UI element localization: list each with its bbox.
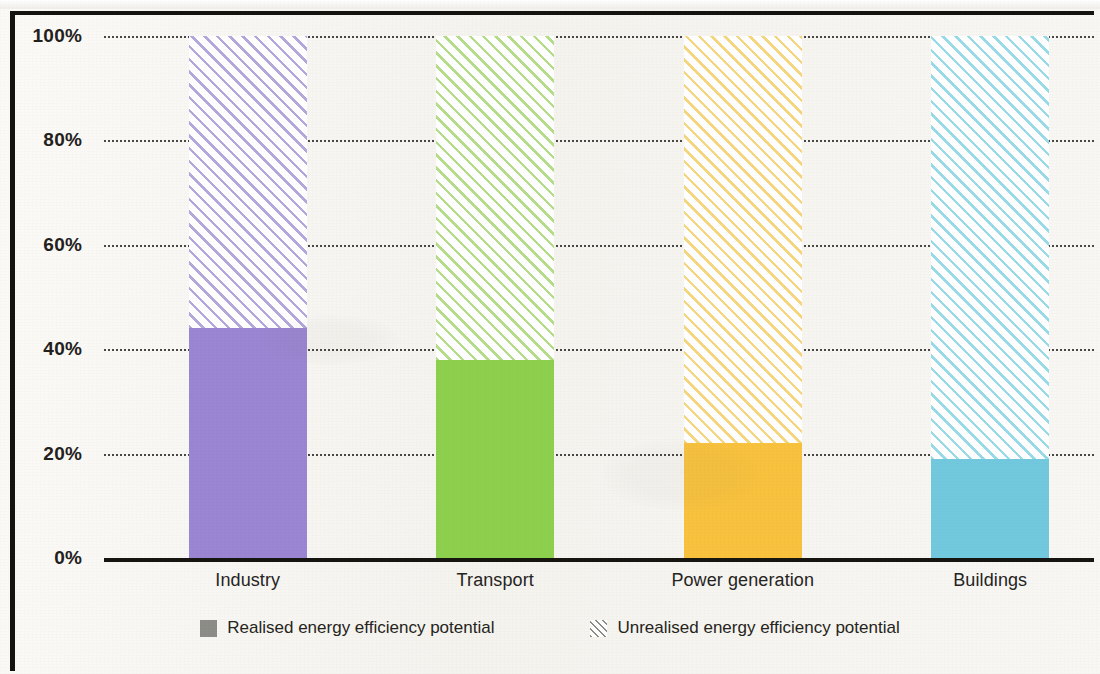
- chart-legend: Realised energy efficiency potentialUnre…: [0, 618, 1100, 638]
- bar-group-transport[interactable]: Transport: [436, 36, 554, 558]
- solid-square-icon: [200, 620, 217, 637]
- bar-segment-unrealised[interactable]: [189, 36, 307, 328]
- legend-item[interactable]: Unrealised energy efficiency potential: [590, 618, 899, 638]
- x-axis-category-label: Industry: [149, 570, 347, 591]
- x-axis-category-label: Power generation: [644, 570, 842, 591]
- bar-segment-unrealised[interactable]: [931, 36, 1049, 459]
- plot-area: 100%80%60%40%20%0% IndustryTransportPowe…: [104, 36, 1094, 558]
- hatched-square-icon: [590, 620, 607, 637]
- legend-label: Unrealised energy efficiency potential: [617, 618, 899, 638]
- y-axis-tick-label: 60%: [0, 234, 82, 256]
- y-axis-tick-label: 20%: [0, 443, 82, 465]
- legend-label: Realised energy efficiency potential: [227, 618, 494, 638]
- legend-item[interactable]: Realised energy efficiency potential: [200, 618, 494, 638]
- page-top-shade: [0, 0, 1100, 9]
- bar-group-buildings[interactable]: Buildings: [931, 36, 1049, 558]
- x-axis-category-label: Transport: [396, 570, 594, 591]
- y-axis-tick-label: 0%: [0, 547, 82, 569]
- bar-segment-unrealised[interactable]: [684, 36, 802, 443]
- bar-segment-realised[interactable]: [931, 459, 1049, 558]
- x-axis-category-label: Buildings: [891, 570, 1089, 591]
- bar-segment-realised[interactable]: [684, 443, 802, 558]
- y-axis-tick-label: 40%: [0, 338, 82, 360]
- y-axis-tick-label: 100%: [0, 25, 82, 47]
- chart-page: 100%80%60%40%20%0% IndustryTransportPowe…: [0, 0, 1100, 674]
- bar-group-industry[interactable]: Industry: [189, 36, 307, 558]
- y-axis-tick-label: 80%: [0, 129, 82, 151]
- bar-segment-realised[interactable]: [436, 360, 554, 558]
- bar-group-power-generation[interactable]: Power generation: [684, 36, 802, 558]
- bar-segment-unrealised[interactable]: [436, 36, 554, 360]
- bar-segment-realised[interactable]: [189, 328, 307, 558]
- gridline-0: [104, 558, 1094, 562]
